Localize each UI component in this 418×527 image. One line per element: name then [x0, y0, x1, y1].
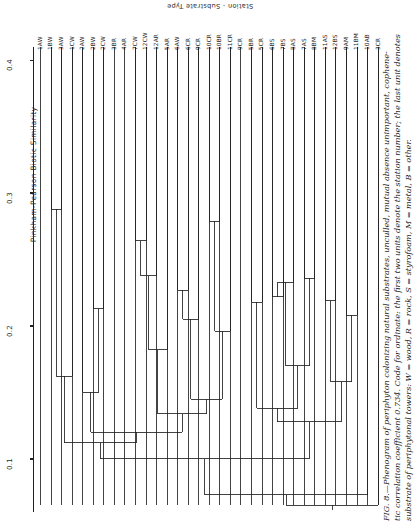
top-axis-title: Station - Substrate Type: [120, 2, 300, 10]
leaf-label: 2CW: [100, 36, 106, 50]
leaf-label: 10BR: [216, 34, 222, 50]
leaf-label: 4AR: [121, 38, 127, 50]
leaf-label: 12CW: [142, 32, 148, 50]
leaf-label: 7CW: [132, 36, 138, 50]
figure-caption-line-1: FIG. 8.—Phenogram of periphyton colonizi…: [381, 21, 392, 521]
leaf-label: 9CR: [237, 38, 243, 50]
leaf-label: 5BR: [248, 38, 254, 50]
leaf-label: 6BS: [269, 38, 275, 50]
leaf-label: 3CR: [375, 38, 381, 50]
caption-text-3: substrate of periphytonal towers: W = wo…: [403, 139, 413, 521]
leaf-label: 3AW: [58, 36, 64, 50]
leaf-label: 1BW: [47, 36, 53, 50]
leaf-label: 1CW: [69, 36, 75, 50]
figure-caption-line-2: tic correlation coefficient 0.734. Code …: [392, 21, 403, 521]
y-tick-label: 0.3: [6, 192, 14, 204]
leaf-label: 11CR: [227, 34, 233, 50]
leaf-label: 11AS: [322, 34, 328, 50]
leaf-label: 10CR: [206, 34, 212, 50]
leaf-label: 8AS: [290, 38, 296, 50]
y-tick-label: 0.2: [6, 325, 14, 337]
figure-caption-line-3: substrate of periphytonal towers: W = wo…: [403, 21, 414, 521]
leaf-label: 9AM: [343, 37, 349, 50]
leaf-label: 7AS: [301, 38, 307, 50]
leaf-label: 11BM: [353, 33, 359, 50]
leaf-label: 1AW: [37, 36, 43, 50]
leaf-label: 5CR: [258, 38, 264, 50]
leaf-label: 10AB: [364, 34, 370, 50]
leaf-label: 7BS: [280, 38, 286, 50]
leaf-label: 2BW: [90, 36, 96, 50]
y-axis-title: Pinkham-Pearson Biotic Similarity: [29, 70, 38, 280]
caption-text-1: FIG. 8.—Phenogram of periphyton colonizi…: [381, 51, 391, 521]
leaf-label: 6CR: [185, 38, 191, 50]
leaf-label: 8BM: [311, 37, 317, 50]
leaf-label: 12BS: [332, 34, 338, 50]
dendrogram-plot: [0, 0, 418, 527]
caption-text-2: tic correlation coefficient 0.734. Code …: [392, 34, 402, 521]
y-tick-label: 0.1: [6, 458, 14, 470]
leaf-label: 6AW: [174, 36, 180, 50]
leaf-label: 5AR: [164, 38, 170, 50]
leaf-label: 12AR: [153, 34, 159, 50]
figure-root: Pinkham-Pearson Biotic Similarity Statio…: [0, 0, 418, 527]
y-tick-label: 0.4: [6, 59, 14, 71]
leaf-label: 2AW: [79, 36, 85, 50]
leaf-label: 3BR: [111, 38, 117, 50]
leaf-label: 9CR: [195, 38, 201, 50]
